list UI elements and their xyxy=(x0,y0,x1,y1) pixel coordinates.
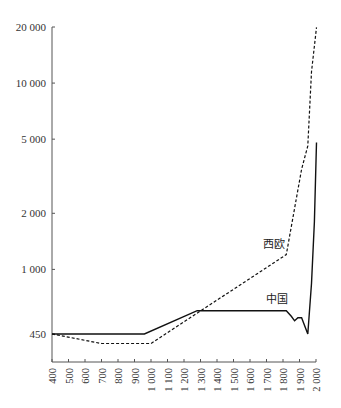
x-tick-label: 1 900 xyxy=(295,368,306,392)
series-label-china: 中国 xyxy=(266,293,288,306)
x-tick-label: 800 xyxy=(113,368,124,384)
series-label-west-europe: 西欧 xyxy=(263,238,285,251)
x-tick-label: 1 800 xyxy=(278,368,289,392)
x-tick-label: 1 700 xyxy=(262,368,273,392)
x-tick-label: 1 100 xyxy=(163,368,174,392)
y-tick-label: 10 000 xyxy=(16,77,47,89)
x-tick-label: 600 xyxy=(80,368,91,384)
y-tick-label: 20 000 xyxy=(16,21,47,33)
x-tick-label: 1 500 xyxy=(229,368,240,392)
x-tick-label: 500 xyxy=(64,368,75,384)
x-tick-label: 2 000 xyxy=(311,368,322,392)
x-tick-label: 1 600 xyxy=(245,368,256,392)
y-tick-label: 2 000 xyxy=(21,207,46,219)
x-tick-label: 900 xyxy=(130,368,141,384)
x-tick-label: 400 xyxy=(47,368,58,384)
y-axis: 20 00010 0005 0002 0001 000450 xyxy=(16,21,55,362)
x-axis: 4005006007008009001 0001 1001 2001 3001 … xyxy=(47,359,322,392)
x-tick-label: 1 200 xyxy=(179,368,190,392)
y-tick-label: 5 000 xyxy=(21,133,46,145)
x-tick-label: 1 000 xyxy=(146,368,157,392)
x-tick-label: 1 400 xyxy=(212,368,223,392)
x-tick-label: 700 xyxy=(97,368,108,384)
line-chart: 20 00010 0005 0002 0001 000450 400500600… xyxy=(0,0,341,408)
x-tick-label: 1 300 xyxy=(196,368,207,392)
y-tick-label: 450 xyxy=(30,328,47,340)
y-tick-label: 1 000 xyxy=(21,263,46,275)
